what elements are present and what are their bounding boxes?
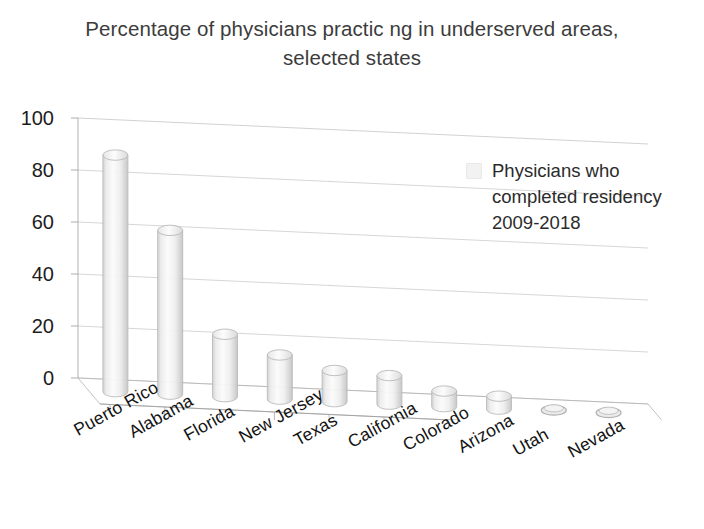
- chart-title: Percentage of physicians practic ng in u…: [0, 14, 704, 72]
- chart-bar: [158, 225, 183, 399]
- y-axis-tick-label: 80: [8, 160, 54, 180]
- y-axis-tick-label: 20: [8, 316, 54, 336]
- chart-bar: [103, 150, 128, 397]
- chart-title-line-1: Percentage of physicians practic ng in u…: [0, 14, 704, 43]
- x-axis-tick-label: Nevada: [564, 415, 627, 461]
- legend-label: Physicians who completed residency 2009-…: [492, 158, 662, 236]
- legend-label-line-3: 2009-2018: [492, 210, 662, 236]
- chart-plot-area: [0, 90, 704, 420]
- legend-label-line-2: completed residency: [492, 184, 662, 210]
- chart-title-line-2: selected states: [0, 43, 704, 72]
- legend-label-line-1: Physicians who: [492, 158, 662, 184]
- y-axis-tick-label: 0: [8, 368, 54, 388]
- chart-legend: Physicians who completed residency 2009-…: [466, 158, 698, 236]
- x-axis-tick-labels: Puerto RicoAlabamaFloridaNew JerseyTexas…: [0, 400, 704, 529]
- y-axis-tick-label: 60: [8, 212, 54, 232]
- chart-bar: [267, 350, 292, 405]
- y-axis-tick-label: 40: [8, 264, 54, 284]
- y-axis-tick-labels: 020406080100: [4, 90, 54, 400]
- chart-back-wall: [78, 118, 648, 144]
- y-axis-tick-label: 100: [8, 108, 54, 128]
- x-axis-tick-label: Utah: [509, 425, 551, 459]
- legend-color-swatch: [466, 163, 482, 179]
- chart-canvas: [0, 90, 704, 420]
- chart-bar: [213, 329, 238, 402]
- chart-y-axis: [71, 118, 78, 378]
